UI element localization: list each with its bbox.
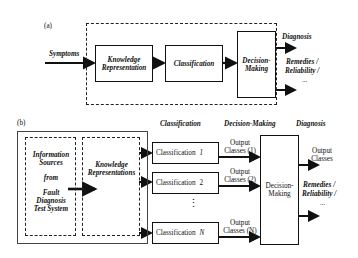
- information-sources-label: Information Sources from Fault Diagnosis…: [26, 151, 76, 213]
- decision-making-block: Decision- Making: [237, 31, 276, 98]
- output-classes-final-label: OutputClasses: [302, 147, 342, 163]
- output-classes-1-label: OutputClasses (1): [222, 139, 258, 155]
- symptoms-label: Symptoms: [49, 50, 79, 58]
- vertical-ellipsis: ⋮: [188, 199, 199, 207]
- output-classes-n-label: OutputClasses (N): [222, 219, 258, 235]
- output-classes-2-label: OutputClasses (2): [222, 168, 258, 184]
- ellipsis: ...: [302, 76, 307, 84]
- panel-a-label: (a): [44, 22, 52, 30]
- decision-making-header: Decision-Making: [224, 120, 276, 128]
- diagnosis-header: Diagnosis: [296, 120, 326, 128]
- classifier-n: Classification N: [152, 222, 219, 244]
- classification-header: Classification: [160, 120, 201, 128]
- classifier-2: Classification 2: [152, 172, 219, 194]
- ellipsis-b: ...: [320, 199, 325, 207]
- diagnosis-output-label: Diagnosis: [282, 33, 312, 41]
- decision-making-block-b: Decision- Making: [260, 135, 299, 245]
- classifier-1: Classification 1: [152, 142, 219, 164]
- knowledge-representations-label: Knowledge Representations: [83, 161, 140, 177]
- remedies-label-b: Remedies /: [303, 181, 335, 189]
- knowledge-representations-box: [82, 137, 140, 236]
- knowledge-representation-block: Knowledge Representation: [95, 45, 153, 82]
- reliability-label-b: Reliability /: [302, 190, 336, 198]
- classification-block: Classification: [165, 45, 223, 82]
- remedies-label: Remedies /: [286, 58, 318, 66]
- panel-b-label: (b): [17, 119, 25, 127]
- reliability-label: Reliability /: [285, 67, 319, 75]
